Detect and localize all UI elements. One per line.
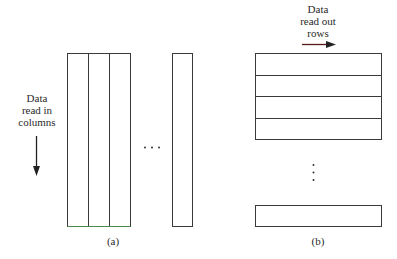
annotation-line: columns	[12, 116, 62, 128]
last-row	[256, 206, 382, 227]
annotation-line: Data	[12, 92, 62, 104]
annotation-line: read in	[12, 104, 62, 116]
annotation-line: Data	[290, 3, 346, 15]
row-block	[256, 54, 382, 140]
arrow-down-icon	[33, 136, 40, 176]
annotation-line: rows	[290, 27, 346, 39]
annotation-read-out-rows: Data read out rows	[290, 3, 346, 39]
column-block	[68, 54, 131, 227]
horizontal-ellipsis-icon	[144, 147, 160, 149]
column-block-outline	[68, 54, 131, 227]
vertical-ellipsis-icon	[313, 164, 315, 181]
annotation-line: read out	[290, 15, 346, 27]
caption-a: (a)	[101, 235, 125, 247]
last-column	[173, 54, 193, 227]
caption-b: (b)	[306, 235, 330, 247]
annotation-read-in-columns: Data read in columns	[12, 92, 62, 128]
arrow-right-icon	[302, 41, 336, 48]
